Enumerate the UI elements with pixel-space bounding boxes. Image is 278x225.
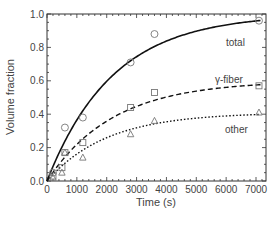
y-tick-label: 0.6: [30, 75, 44, 86]
series-label-other: other: [225, 124, 248, 135]
y-tick-label: 0.8: [30, 42, 44, 53]
circle-marker: [151, 31, 158, 38]
x-tick-label: 6000: [215, 184, 238, 195]
triangle-marker: [80, 154, 86, 160]
y-axis-label: Volume fraction: [4, 59, 16, 135]
triangle-marker: [127, 131, 133, 137]
x-tick-label: 5000: [185, 184, 208, 195]
square-marker: [256, 83, 262, 89]
circle-marker: [61, 124, 68, 131]
x-tick-label: 3000: [125, 184, 148, 195]
x-tick-label: 1000: [66, 184, 89, 195]
circle-marker: [79, 114, 86, 121]
x-tick-label: 7000: [245, 184, 268, 195]
x-tick-label: 4000: [155, 184, 178, 195]
chart: 010002000300040005000600070000.00.20.40.…: [0, 0, 278, 225]
x-tick-label: 0: [44, 184, 50, 195]
square-marker: [151, 89, 157, 95]
series-label-gamma-fiber: γ-fiber: [215, 74, 243, 85]
y-tick-label: 0.0: [30, 176, 44, 187]
series-label-total: total: [226, 37, 245, 48]
triangle-marker: [256, 109, 262, 115]
y-tick-label: 1.0: [30, 9, 44, 20]
x-tick-label: 2000: [96, 184, 119, 195]
triangle-marker: [151, 117, 157, 123]
triangle-marker: [59, 169, 65, 175]
y-tick-label: 0.4: [30, 109, 44, 120]
x-axis-label: Time (s): [136, 196, 176, 208]
y-tick-label: 0.2: [30, 142, 44, 153]
